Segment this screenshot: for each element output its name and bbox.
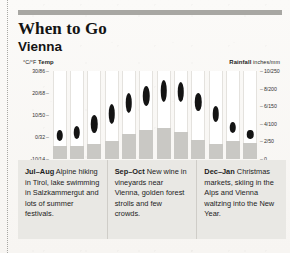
rainfall-bar — [122, 134, 136, 159]
rainfall-axis-caption: Rainfall inches/mm — [229, 59, 280, 65]
page-title: When to Go — [18, 20, 286, 38]
temperature-marker — [178, 82, 185, 102]
temperature-marker — [74, 126, 81, 139]
rainfall-axis-units: inches/mm — [253, 59, 280, 65]
month-column — [173, 71, 189, 159]
temp-axis-caption: °C/°F Temp — [23, 59, 54, 65]
page-fold-dotted-line — [7, 0, 8, 253]
rainfall-bar — [139, 130, 153, 159]
rainfall-bar — [70, 146, 84, 159]
temperature-marker — [195, 93, 202, 111]
month-column — [208, 71, 224, 159]
temp-tick-label: 0/32 — [35, 134, 49, 140]
season-period: Dec–Jan — [204, 167, 234, 176]
temperature-marker — [108, 104, 115, 124]
temp-axis-ticks: 30/8620/6810/500/32-10/14 — [18, 71, 49, 159]
temp-tick-label: 20/68 — [32, 90, 49, 96]
month-column — [104, 71, 120, 159]
rainfall-tick-label: 2/50 — [260, 138, 274, 144]
rainfall-bar — [105, 141, 119, 159]
header-rule — [18, 10, 282, 15]
temperature-marker — [230, 122, 237, 133]
rainfall-tick-label: 6/150 — [260, 103, 277, 109]
month-column — [121, 71, 137, 159]
temperature-marker — [91, 115, 98, 133]
chart-axis-captions: °C/°F Temp Rainfall inches/mm — [18, 59, 286, 70]
temperature-marker — [56, 130, 63, 141]
season-period: Sep–Oct — [115, 167, 145, 176]
season-note: Dec–Jan Christmas markets, skiing in the… — [196, 160, 286, 239]
rainfall-bar — [157, 128, 171, 159]
rainfall-bar — [87, 144, 101, 159]
rainfall-bar — [191, 140, 205, 159]
rainfall-bar — [53, 146, 67, 159]
month-column — [225, 71, 241, 159]
rainfall-bar — [174, 132, 188, 159]
temp-axis-units: °C/°F — [23, 59, 37, 65]
temp-tick-label: 30/86 — [32, 68, 49, 74]
rainfall-axis-name: Rainfall — [229, 59, 251, 65]
temp-tick-label: 10/50 — [32, 112, 49, 118]
temperature-marker — [126, 93, 133, 113]
rainfall-tick-label: 4/100 — [260, 121, 277, 127]
temperature-marker — [212, 106, 219, 121]
temperature-marker — [160, 80, 167, 102]
seasons-panel: Jul–Aug Alpine hiking in Tirol, lake swi… — [18, 160, 286, 239]
month-column — [69, 71, 85, 159]
month-column — [138, 71, 154, 159]
month-column — [86, 71, 102, 159]
month-column — [190, 71, 206, 159]
rainfall-axis-ticks: 10/2508/2006/1504/1002/500 — [260, 71, 286, 159]
month-column — [156, 71, 172, 159]
temp-axis-name: Temp — [38, 59, 54, 65]
season-note: Jul–Aug Alpine hiking in Tirol, lake swi… — [18, 160, 107, 239]
rainfall-bar — [209, 144, 223, 159]
temperature-marker — [247, 130, 254, 139]
rainfall-bar — [243, 143, 257, 159]
season-note: Sep–Oct New wine in vineyards near Vienn… — [107, 160, 197, 239]
rainfall-tick-label: 8/200 — [260, 86, 277, 92]
temperature-marker — [143, 86, 150, 106]
page-subtitle: Vienna — [18, 40, 286, 54]
month-column — [52, 71, 68, 159]
chart-columns — [51, 71, 259, 159]
month-column — [242, 71, 258, 159]
rainfall-bar — [226, 141, 240, 159]
season-period: Jul–Aug — [25, 167, 54, 176]
climate-chart: 30/8620/6810/500/32-10/14 10/2508/2006/1… — [18, 71, 286, 159]
rainfall-tick-label: 10/250 — [260, 68, 280, 74]
